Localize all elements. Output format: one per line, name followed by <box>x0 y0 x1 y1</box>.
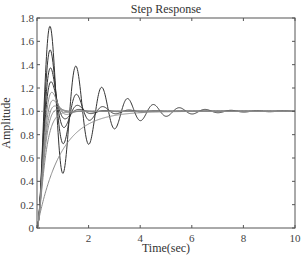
y-tick-label: 1.6 <box>20 35 34 47</box>
step-response-curve <box>37 100 295 228</box>
x-axis-label: Time(sec) <box>142 241 190 255</box>
axes <box>37 18 295 228</box>
y-tick-label: 1.4 <box>20 59 34 71</box>
y-axis-label: Amplitude <box>0 97 13 148</box>
step-response-curve <box>37 68 295 228</box>
plot-frame <box>37 18 295 228</box>
y-tick-label: 0.2 <box>20 199 34 211</box>
step-response-curve <box>37 50 295 228</box>
y-tick-label: 0.4 <box>20 175 34 187</box>
y-tick-label: 1.2 <box>20 82 34 94</box>
x-tick-label: 2 <box>86 232 92 244</box>
y-tick-label: 1.8 <box>20 12 34 24</box>
step-response-chart: Step Response 246810 00.20.40.60.81.01.2… <box>0 0 301 263</box>
step-response-curve <box>37 111 295 228</box>
y-tick-label: 0 <box>29 222 35 234</box>
x-tick-label: 10 <box>290 232 302 244</box>
step-response-curve <box>37 26 295 228</box>
y-tick-label: 1.0 <box>20 105 34 117</box>
response-curves <box>37 26 295 228</box>
y-tick-label: 0.6 <box>20 152 34 164</box>
chart-title: Step Response <box>131 2 201 16</box>
step-response-curve <box>37 111 295 228</box>
x-tick-label: 8 <box>241 232 247 244</box>
step-response-curve <box>37 82 295 228</box>
step-response-curve <box>37 110 295 228</box>
x-axis-ticks: 246810 <box>37 18 301 244</box>
step-response-curve <box>37 106 295 228</box>
y-tick-label: 0.8 <box>20 129 34 141</box>
step-response-curve <box>37 92 295 228</box>
